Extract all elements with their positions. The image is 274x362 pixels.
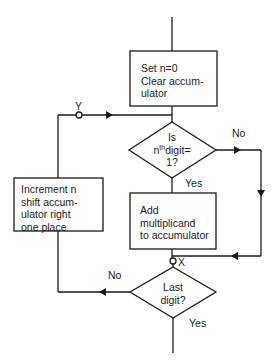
init-line-3: ulator bbox=[141, 87, 203, 100]
test-line-3: 1? bbox=[140, 156, 204, 169]
increment-line-3: ulator right bbox=[21, 208, 78, 221]
arrow-down-icon bbox=[257, 190, 265, 197]
add-line-2: multiplicand bbox=[140, 217, 209, 230]
test-line-2: nthdigit= bbox=[140, 144, 204, 157]
flowchart-canvas bbox=[0, 0, 274, 362]
increment-line-1: Increment n bbox=[21, 183, 78, 196]
last-line-1: Last bbox=[148, 281, 198, 294]
last-line-2: digit? bbox=[148, 294, 198, 307]
x-connector-label: X bbox=[178, 256, 185, 268]
add-line-3: to accumulator bbox=[140, 229, 209, 242]
arrow-left-icon bbox=[99, 288, 106, 296]
test-line-1: Is bbox=[140, 131, 204, 144]
increment-line-2: shift accum- bbox=[21, 196, 78, 209]
last-yes-label: Yes bbox=[189, 317, 206, 329]
increment-box: Increment n shift accum- ulator right on… bbox=[21, 183, 78, 233]
x-connector-circle bbox=[170, 258, 176, 264]
last-no-label: No bbox=[108, 269, 121, 281]
test-line-2-post: digit= bbox=[165, 144, 190, 156]
arrow-left-icon bbox=[231, 252, 238, 260]
init-line-2: Clear accum- bbox=[141, 75, 203, 88]
init-box: Set n=0 Clear accum- ulator bbox=[141, 62, 203, 100]
last-digit-decision: Last digit? bbox=[148, 281, 198, 306]
test-digit-decision: Is nthdigit= 1? bbox=[140, 131, 204, 169]
arrow-right-icon bbox=[106, 111, 113, 119]
test-no-label: No bbox=[232, 127, 245, 139]
add-box: Add multiplicand to accumulator bbox=[140, 204, 209, 242]
increment-line-4: one place bbox=[21, 221, 78, 234]
arrow-right-icon bbox=[234, 146, 241, 154]
add-line-1: Add bbox=[140, 204, 209, 217]
y-connector-circle bbox=[76, 112, 82, 118]
test-yes-label: Yes bbox=[185, 177, 202, 189]
y-connector-label: Y bbox=[75, 100, 82, 112]
init-line-1: Set n=0 bbox=[141, 62, 203, 75]
